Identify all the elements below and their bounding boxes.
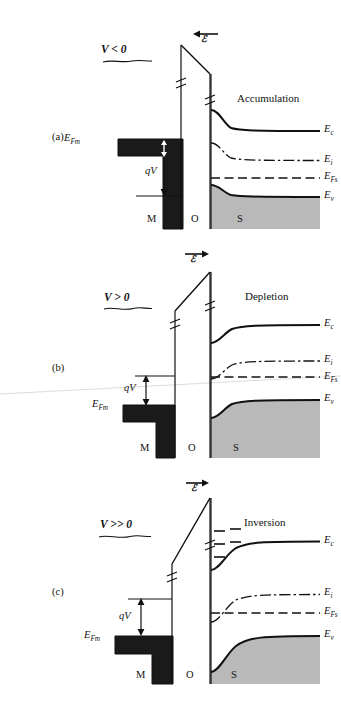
bias-label-c: V >> 0	[100, 519, 132, 531]
level-label-b-2: EFs	[324, 371, 338, 384]
level-sub-b-3: v	[330, 398, 333, 406]
efield-symbol-c: ℰ	[191, 484, 197, 494]
bias-label-b: V > 0	[104, 292, 130, 304]
region-label-semiconductor-c: S	[231, 670, 237, 681]
oxide-conduction-band-edge	[181, 45, 210, 74]
panel-c-graphic	[0, 472, 341, 723]
panel-c-inversion: (c) V >> 0 Inversion ℰ EFm qV Ec Ei EFs …	[0, 472, 341, 723]
panel-tag-a: (a)	[52, 132, 64, 143]
regime-label-b: Depletion	[245, 291, 288, 302]
panel-a-graphic	[0, 0, 341, 241]
qv-arrowhead-down	[138, 629, 145, 636]
level-sub-b-0: c	[330, 323, 333, 331]
level-sub-b-1: i	[330, 359, 332, 367]
regime-label-a: Accumulation	[237, 93, 299, 104]
regime-label-c: Inversion	[244, 517, 286, 528]
mos-band-diagram-figure: (a) V < 0 Accumulation ℰ EFm qV Ec Ei EF…	[0, 0, 341, 723]
region-label-semiconductor-b: S	[233, 443, 239, 454]
intrinsic-level-Ei	[211, 595, 320, 623]
efield-symbol-a: ℰ	[201, 35, 207, 45]
metal-fermi-sub-b: Fm	[98, 404, 108, 412]
level-label-a-0: Ec	[324, 124, 334, 137]
efield-arrowhead	[193, 31, 200, 38]
level-label-b-0: Ec	[324, 318, 334, 331]
panel-b-graphic	[0, 241, 341, 472]
qv-label-a: qV	[145, 166, 157, 177]
level-label-c-3: Ev	[324, 629, 334, 642]
panel-tag-b: (b)	[52, 363, 64, 374]
level-sub-a-1: i	[330, 159, 332, 167]
efield-arrowhead	[202, 251, 209, 258]
bias-underline-squiggle	[104, 308, 152, 310]
region-label-metal-a: M	[147, 214, 156, 225]
metal-fermi-label-b: EFm	[92, 399, 108, 412]
level-label-a-2: EFs	[324, 171, 338, 184]
level-sub-c-0: c	[330, 540, 333, 548]
scan-artifact-line	[0, 376, 341, 394]
inversion-layer-states	[214, 529, 241, 557]
bias-underline-squiggle	[103, 60, 152, 62]
level-label-a-3: Ev	[324, 190, 334, 203]
metal-fermi-label-c: EFm	[84, 630, 100, 643]
intrinsic-level-Ei	[211, 361, 320, 379]
metal-fermi-sub-c: Fm	[90, 635, 100, 643]
region-label-oxide-c: O	[186, 670, 194, 681]
level-sub-a-0: c	[330, 129, 333, 137]
oxide-conduction-band-edge	[172, 498, 210, 564]
level-sub-b-2: Fs	[330, 376, 337, 384]
level-label-c-1: Ei	[324, 587, 332, 600]
level-label-b-1: Ei	[324, 354, 332, 367]
region-label-semiconductor-a: S	[237, 214, 243, 225]
metal-fermi-sub-a: Fm	[70, 138, 80, 146]
region-label-metal-b: M	[140, 443, 149, 454]
level-label-b-3: Ev	[324, 393, 334, 406]
region-label-oxide-a: O	[191, 214, 199, 225]
level-label-c-2: EFs	[324, 606, 338, 619]
bias-label-a: V < 0	[101, 44, 127, 56]
panel-b-depletion: (b) V > 0 Depletion ℰ EFm qV Ec Ei EFs E…	[0, 241, 341, 472]
level-sub-a-3: v	[330, 195, 333, 203]
level-label-a-1: Ei	[324, 154, 332, 167]
region-label-oxide-b: O	[188, 443, 196, 454]
panel-tag-c: (c)	[52, 587, 64, 598]
metal-fermi-label-a: EFm	[64, 133, 80, 146]
level-sub-c-1: i	[330, 592, 332, 600]
valence-band-fill	[211, 400, 320, 458]
qv-label-c: qV	[119, 611, 131, 622]
qv-label-b: qV	[124, 383, 136, 394]
level-sub-c-2: Fs	[330, 611, 337, 619]
conduction-band-Ec	[211, 325, 320, 343]
intrinsic-level-Ei	[211, 143, 320, 161]
efield-arrowhead	[202, 480, 209, 487]
valence-band-fill	[211, 636, 320, 684]
panel-a-accumulation: (a) V < 0 Accumulation ℰ EFm qV Ec Ei EF…	[0, 0, 341, 241]
level-sub-a-2: Fs	[330, 176, 337, 184]
efield-symbol-b: ℰ	[190, 255, 196, 265]
region-label-metal-c: M	[136, 670, 145, 681]
bias-underline-squiggle	[99, 536, 151, 538]
oxide-conduction-band-edge	[175, 272, 210, 311]
valence-band-fill	[211, 185, 320, 229]
level-label-c-0: Ec	[324, 535, 334, 548]
conduction-band-Ec	[211, 542, 320, 571]
conduction-band-Ec	[211, 110, 320, 131]
level-sub-c-3: v	[330, 634, 333, 642]
